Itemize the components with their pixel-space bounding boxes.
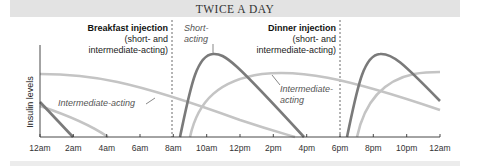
insulin-chart: 12am 2am 4am 6am 8am 10am 12pm 2pm 4pm 6… (0, 0, 479, 166)
svg-text:acting: acting (184, 34, 208, 44)
svg-text:(short- and: (short- and (124, 34, 168, 44)
dinner-annotation: Dinner injection (short- and intermediat… (256, 23, 336, 55)
intermediate-curve-early-tail (40, 106, 108, 137)
tick-label: 2am (65, 143, 82, 153)
intermediate-acting-label-left: Intermediate-acting (58, 98, 155, 108)
svg-text:intermediate-acting): intermediate-acting) (88, 45, 168, 55)
svg-text:Breakfast injection: Breakfast injection (87, 23, 168, 33)
svg-text:Short-: Short- (184, 23, 209, 33)
leader-line (146, 98, 155, 104)
short-acting-label: Short- acting (184, 23, 213, 53)
intermediate-curve-breakfast (190, 73, 440, 137)
tick-label: 10am (196, 143, 217, 153)
tick-label: 8am (165, 143, 182, 153)
svg-text:(short- and: (short- and (292, 34, 336, 44)
x-tick-labels: 12am 2am 4am 6am 8am 10am 12pm 2pm 4pm 6… (29, 143, 450, 153)
breakfast-annotation: Breakfast injection (short- and intermed… (87, 23, 168, 55)
tick-label: 6pm (332, 143, 349, 153)
leader-line (272, 75, 280, 85)
y-axis-label: Insulin levels (25, 76, 35, 128)
tick-label: 8pm (365, 143, 382, 153)
tick-label: 12am (429, 143, 450, 153)
svg-text:Intermediate-: Intermediate- (280, 84, 333, 94)
tick-label: 12am (29, 143, 50, 153)
footer-bar (10, 161, 460, 166)
svg-text:intermediate-acting): intermediate-acting) (256, 45, 336, 55)
tick-label: 6am (132, 143, 149, 153)
svg-text:acting: acting (280, 95, 304, 105)
intermediate-acting-label-right: Intermediate- acting (272, 75, 333, 105)
tick-label: 12pm (229, 143, 250, 153)
svg-text:Intermediate-acting: Intermediate-acting (58, 98, 135, 108)
svg-text:Dinner injection: Dinner injection (268, 23, 336, 33)
tick-label: 4am (98, 143, 115, 153)
tick-label: 2pm (265, 143, 282, 153)
tick-label: 4pm (298, 143, 315, 153)
tick-label: 10pm (396, 143, 417, 153)
